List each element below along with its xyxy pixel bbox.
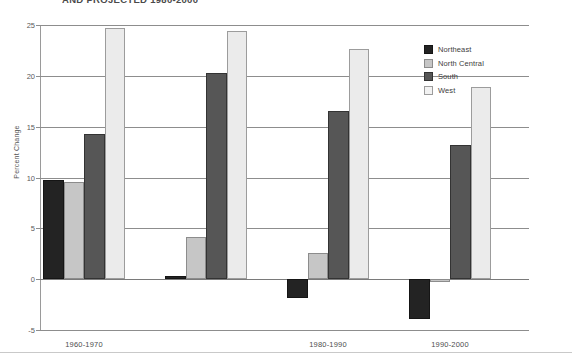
bar-1980-1990-west <box>349 49 370 279</box>
y-tick-mark-15 <box>36 127 40 128</box>
legend-item-south: South <box>424 70 484 84</box>
y-tick-label-25: 25 <box>27 21 35 30</box>
bar-1960-1970-south <box>84 134 105 279</box>
y-tick-mark-20 <box>36 76 40 77</box>
bar-1980-1990-north-central <box>308 253 329 279</box>
legend-swatch-north_central <box>424 59 433 68</box>
legend-swatch-west <box>424 86 433 95</box>
legend-swatch-south <box>424 72 433 81</box>
legend-item-north_central: North Central <box>424 57 484 71</box>
y-tick-mark-25 <box>36 25 40 26</box>
bar-1980-1990-northeast <box>287 279 308 298</box>
bar-1960-1970-north-central <box>64 182 85 280</box>
x-tick-label-1960-1970: 1960-1970 <box>65 340 103 349</box>
y-tick-label-5: 5 <box>31 224 35 233</box>
bar-1990-2000-northeast <box>409 279 430 319</box>
y-tick-label-20: 20 <box>27 71 35 80</box>
bar-1990-2000-south <box>450 145 471 279</box>
gridline-0 <box>40 279 529 280</box>
legend-item-west: West <box>424 84 484 98</box>
bar-1990-2000-west <box>471 87 492 279</box>
y-tick-mark-10 <box>36 178 40 179</box>
y-tick-label-10: 10 <box>27 173 35 182</box>
legend-label-north_central: North Central <box>438 59 484 68</box>
chart-figure: AND PROJECTED 1980-2000 Percent Change 2… <box>0 0 572 359</box>
legend-label-northeast: Northeast <box>438 45 471 54</box>
bar-1970-1980-northeast <box>165 276 186 279</box>
bar-1960-1970-northeast <box>43 180 64 280</box>
page-bottom-rule <box>0 352 572 353</box>
bar-1970-1980-west <box>227 31 248 279</box>
gridline-25 <box>40 25 529 26</box>
bar-1960-1970-west <box>105 28 126 279</box>
y-tick-mark--5 <box>36 330 40 331</box>
y-tick-mark-0 <box>36 279 40 280</box>
legend-label-south: South <box>438 72 458 81</box>
figure-title: AND PROJECTED 1980-2000 <box>62 0 198 3</box>
y-axis-label: Percent Change <box>13 125 20 178</box>
x-tick-label-1980-1990: 1980-1990 <box>309 340 347 349</box>
bar-1980-1990-south <box>328 111 349 279</box>
gridline--5 <box>40 330 529 331</box>
chart-legend: NortheastNorth CentralSouthWest <box>424 43 484 97</box>
bar-1970-1980-north-central <box>186 237 207 279</box>
legend-swatch-northeast <box>424 45 433 54</box>
y-tick-label-15: 15 <box>27 122 35 131</box>
bar-1970-1980-south <box>206 73 227 279</box>
legend-item-northeast: Northeast <box>424 43 484 57</box>
y-tick-label--5: -5 <box>28 326 35 335</box>
bar-1990-2000-north-central <box>430 279 451 282</box>
y-tick-label-0: 0 <box>31 275 35 284</box>
x-tick-label-1990-2000: 1990-2000 <box>431 340 469 349</box>
y-tick-mark-5 <box>36 228 40 229</box>
legend-label-west: West <box>438 86 455 95</box>
